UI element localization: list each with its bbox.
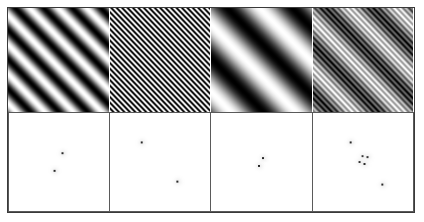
panel-grating-3 [313,8,415,112]
panel-grating-1 [110,8,212,112]
spectrum-canvas-2 [211,113,312,211]
spectrum-canvas-3 [313,113,414,211]
panel-grid [8,8,414,212]
panel-spectrum-1 [110,112,212,212]
grating-canvas-2 [211,8,312,112]
panel-grating-2 [211,8,313,112]
grating-canvas-0 [8,8,109,112]
figure-root: Sinusoidal gratings and their Fourier am… [0,0,424,222]
panel-spectrum-0 [8,112,110,212]
panel-grating-0 [8,8,110,112]
spectrum-canvas-1 [110,113,211,211]
grating-canvas-3 [313,8,414,112]
panel-spectrum-3 [313,112,415,212]
panel-spectrum-2 [211,112,313,212]
grating-canvas-1 [110,8,211,112]
spectrum-canvas-0 [9,113,109,211]
